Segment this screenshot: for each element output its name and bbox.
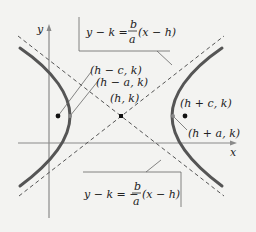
y-axis-label: y [36, 23, 44, 36]
center-point [119, 114, 123, 118]
focus-right-label: (h + c, k) [180, 97, 232, 110]
svg-text:a: a [129, 33, 136, 46]
left-branch [20, 48, 70, 186]
vertex-left-label: (h − a, k) [96, 76, 148, 89]
diagram-canvas: y x (h − c, k) (h − a, k) (h, k) (h + c,… [0, 0, 256, 232]
right-branch [172, 48, 222, 186]
svg-text:y − k = −: y − k = − [83, 188, 139, 201]
svg-text:y − k =: y − k = [85, 26, 128, 39]
hyperbola-diagram: y x (h − c, k) (h − a, k) (h, k) (h + c,… [0, 0, 256, 232]
svg-text:a: a [133, 195, 140, 208]
focus-right-point [183, 114, 188, 119]
vertex-right-label: (h + a, k) [188, 127, 240, 140]
focus-left-point [56, 114, 61, 119]
vertex-left-point [68, 114, 72, 118]
svg-text:b: b [134, 180, 141, 193]
svg-text:(x − h): (x − h) [142, 188, 180, 201]
upper-asymptote-equation: y − k = b a (x − h) [79, 17, 176, 51]
x-axis-arrow-icon [230, 141, 237, 146]
center-label: (h, k) [110, 92, 139, 105]
lower-asymptote-equation: y − k = − b a (x − h) [83, 172, 181, 208]
vertex-right-point [171, 114, 175, 118]
x-axis-label: x [230, 146, 237, 159]
points [56, 114, 188, 119]
y-axis-arrow-icon [47, 24, 52, 31]
svg-text:b: b [130, 18, 137, 31]
svg-text:(x − h): (x − h) [138, 26, 176, 39]
